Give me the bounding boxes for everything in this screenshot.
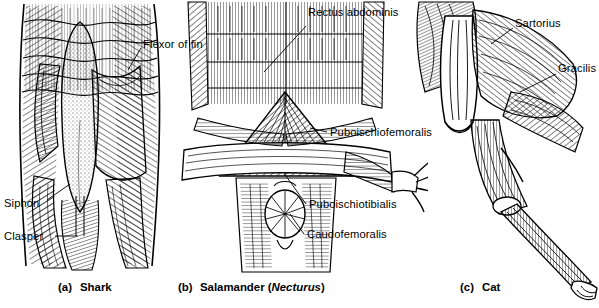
caption-tag-c: (c) — [460, 281, 482, 293]
caption-cat: (c)Cat — [460, 281, 500, 293]
caption-paren-close: ) — [321, 281, 325, 293]
label-rectus-abdominis: Rectus abdominis — [308, 6, 399, 18]
panel-cat: Sartorius Gracilis (c)Cat — [415, 0, 599, 308]
label-sartorius: Sartorius — [515, 17, 561, 29]
caption-genus-necturus: Necturus — [272, 281, 321, 293]
panel-salamander: Rectus abdominis Puboischiofemoralis Pub… — [178, 0, 428, 308]
cat-leader-lines — [415, 0, 599, 308]
caption-text-salamander: Salamander ( — [200, 281, 272, 293]
caption-text-cat: Cat — [482, 281, 500, 293]
caption-tag-b: (b) — [178, 281, 200, 293]
caption-tag-a: (a) — [58, 281, 80, 293]
caption-text-shark: Shark — [80, 281, 112, 293]
caption-shark: (a)Shark — [58, 281, 112, 293]
panel-shark: Flexor of fin Siphon Clasper (a)Shark — [0, 0, 190, 308]
label-puboischiotibialis: Puboischiotibialis — [309, 198, 397, 210]
comparative-anatomy-figure: Flexor of fin Siphon Clasper (a)Shark — [0, 0, 599, 308]
label-clasper: Clasper — [4, 230, 43, 242]
label-gracilis: Gracilis — [558, 62, 596, 74]
label-caudofemoralis: Caudofemoralis — [307, 228, 387, 240]
label-siphon: Siphon — [4, 197, 39, 209]
caption-salamander: (b)Salamander (Necturus) — [178, 281, 325, 293]
